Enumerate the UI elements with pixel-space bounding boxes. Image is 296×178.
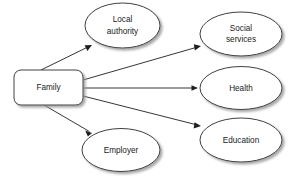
- node-social-services[interactable]: Social services: [200, 12, 282, 56]
- arrow-head-icon: [194, 44, 201, 50]
- node-social-services-shape[interactable]: [200, 12, 282, 56]
- edge-line: [44, 105, 89, 132]
- arrow-head-icon: [192, 85, 199, 91]
- node-education-label: Education: [223, 136, 260, 145]
- node-employer-label: Employer: [104, 146, 139, 155]
- node-employer[interactable]: Employer: [82, 129, 160, 172]
- node-local-authority-label-line1: Local: [113, 15, 133, 24]
- node-health-label: Health: [229, 84, 253, 93]
- node-social-services-label-line2: services: [226, 35, 256, 44]
- node-family[interactable]: Family: [14, 70, 83, 105]
- node-education[interactable]: Education: [200, 118, 282, 162]
- edge-line: [83, 96, 198, 125]
- node-group: Family Local authority Social services H…: [14, 3, 282, 172]
- node-social-services-label-line1: Social: [230, 24, 252, 33]
- node-health[interactable]: Health: [200, 67, 282, 110]
- node-local-authority-label-line2: authority: [107, 27, 139, 36]
- edge-family-to-employer: [44, 105, 92, 136]
- node-local-authority-shape[interactable]: [85, 3, 160, 48]
- edge-family-to-health: [83, 85, 198, 91]
- edge-line: [41, 46, 90, 70]
- node-local-authority[interactable]: Local authority: [85, 3, 160, 48]
- relationship-diagram: Family Local authority Social services H…: [0, 0, 296, 178]
- edge-line: [83, 47, 198, 80]
- node-family-label: Family: [36, 83, 61, 92]
- edge-family-to-local-authority: [41, 45, 92, 70]
- diagram-canvas: Family Local authority Social services H…: [0, 0, 296, 178]
- edge-family-to-education: [83, 96, 201, 129]
- arrow-head-icon: [194, 122, 201, 128]
- edge-family-to-social-services: [83, 44, 201, 80]
